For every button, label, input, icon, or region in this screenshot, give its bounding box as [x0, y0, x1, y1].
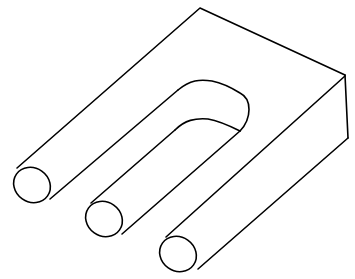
- right-tube: [153, 229, 204, 279]
- impossible-object-figure: [0, 0, 355, 279]
- block-outline: [17, 8, 348, 269]
- middle-tube: [79, 119, 240, 244]
